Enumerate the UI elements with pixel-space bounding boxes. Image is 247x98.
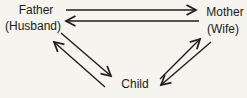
node-father-label: Father bbox=[19, 4, 54, 17]
node-mother-sublabel: (Wife) bbox=[207, 23, 239, 36]
arrow-child-to-mother bbox=[160, 39, 200, 79]
node-child-label: Child bbox=[121, 78, 148, 91]
family-relationship-diagram: Father (Husband) Mother (Wife) Child bbox=[0, 0, 247, 98]
arrow-mother-to-child bbox=[161, 42, 211, 85]
node-father-sublabel: (Husband) bbox=[5, 20, 61, 33]
node-mother-label: Mother bbox=[206, 6, 243, 19]
